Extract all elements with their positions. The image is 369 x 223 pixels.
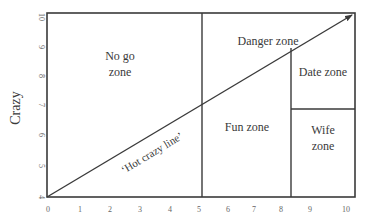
- y-axis-title: Crazy: [8, 91, 23, 124]
- x-axis-ticks: 0 1 2 3 4 5 6 7 8 9 10: [46, 205, 350, 214]
- y-tick-9: 9: [37, 45, 46, 49]
- x-tick-1: 1: [78, 205, 82, 214]
- x-tick-8: 8: [279, 205, 283, 214]
- hot-crazy-line: [47, 15, 352, 197]
- x-tick-3: 3: [138, 205, 142, 214]
- y-tick-8: 8: [37, 74, 46, 78]
- y-tick-4: 4: [37, 195, 46, 199]
- zone-label-danger: Danger zone: [238, 34, 299, 48]
- zone-label-no-go-line1: No go: [105, 49, 135, 63]
- y-tick-6: 6: [37, 133, 46, 137]
- x-tick-7: 7: [252, 205, 256, 214]
- x-tick-5: 5: [197, 205, 201, 214]
- zone-label-date: Date zone: [299, 65, 347, 79]
- y-tick-5: 5: [37, 164, 46, 168]
- y-tick-10: 10: [37, 13, 46, 21]
- x-tick-0: 0: [46, 205, 50, 214]
- x-tick-6: 6: [226, 205, 230, 214]
- y-axis-ticks: 4 5 6 7 8 9 10: [37, 13, 46, 199]
- x-tick-2: 2: [108, 205, 112, 214]
- hot-crazy-line-label: ‘Hot crazy line’: [119, 130, 185, 176]
- x-tick-10: 10: [342, 205, 350, 214]
- x-tick-9: 9: [308, 205, 312, 214]
- zone-label-no-go-line2: zone: [109, 65, 132, 79]
- y-tick-7: 7: [37, 103, 46, 107]
- hot-crazy-matrix-chart: ‘Hot crazy line’ No go zone Danger zone …: [0, 0, 369, 223]
- x-tick-4: 4: [168, 205, 172, 214]
- zone-label-fun: Fun zone: [225, 120, 269, 134]
- zone-label-wife-line2: zone: [312, 139, 335, 153]
- zone-label-wife-line1: Wife: [311, 123, 335, 137]
